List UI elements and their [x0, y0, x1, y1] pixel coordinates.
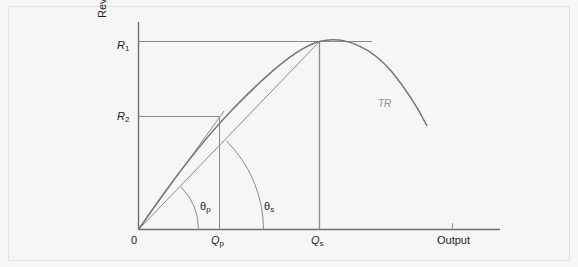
y-tick-label-R2: R2	[117, 110, 129, 124]
origin-label: 0	[131, 234, 137, 246]
y-tick-R2-base: R	[117, 110, 125, 122]
angle-label-theta-p: θp	[200, 200, 211, 214]
angle-arc-theta-p	[181, 187, 199, 230]
y-axis-title: Revenue (£)	[96, 0, 108, 18]
y-tick-R1-base: R	[117, 39, 125, 51]
y-tick-label-R1: R1	[117, 39, 129, 53]
x-tick-Qp-sub: p	[220, 239, 224, 248]
x-tick-Qs-base: Q	[311, 234, 320, 246]
angle-arc-theta-s	[227, 141, 264, 230]
total-revenue-curve	[139, 40, 428, 230]
x-axis-title: Output	[437, 234, 470, 246]
diagram-canvas	[0, 0, 578, 267]
angle-theta-s-sub: s	[270, 205, 274, 214]
angle-theta-p-sub: p	[206, 205, 210, 214]
y-tick-R1-sub: 1	[125, 44, 129, 53]
ray-to-revenue-max-point	[139, 42, 320, 230]
y-tick-R2-sub: 2	[125, 115, 129, 124]
x-tick-label-Qp: Qp	[211, 234, 224, 248]
angle-label-theta-s: θs	[264, 200, 274, 214]
y-axis-title-text: Revenue (£)	[96, 0, 108, 18]
x-tick-Qs-sub: s	[320, 239, 324, 248]
x-tick-Qp-base: Q	[211, 234, 220, 246]
x-tick-label-Qs: Qs	[311, 234, 324, 248]
figure-container: Revenue (£) R1 R2 0 Qp Qs Output TR θp θ…	[0, 0, 578, 267]
curve-label-tr: TR	[378, 98, 391, 109]
